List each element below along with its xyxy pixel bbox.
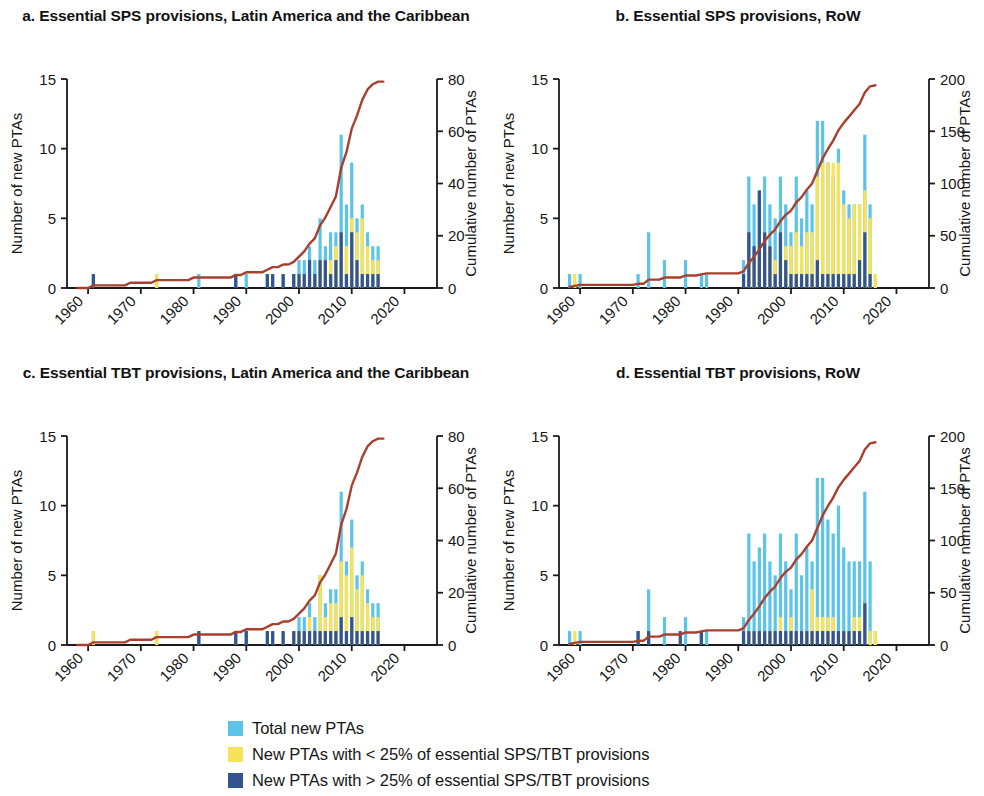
bar — [340, 232, 343, 288]
bar — [774, 274, 777, 288]
bar — [313, 631, 316, 645]
bar — [779, 232, 782, 288]
bar — [308, 631, 311, 645]
x-tick-label: 1970 — [103, 649, 139, 685]
y2-axis-title: Cumulative number of PTAs — [462, 447, 479, 633]
bar — [763, 534, 766, 645]
y-tick-label: 10 — [39, 497, 56, 514]
panel-a-plot: 0510150204060801960197019801990200020102… — [0, 0, 492, 357]
bar — [636, 274, 639, 288]
y2-tick-label: 0 — [940, 280, 948, 297]
y2-tick-label: 50 — [940, 584, 957, 601]
bar — [318, 260, 321, 288]
bar — [768, 631, 771, 645]
x-tick-label: 2000 — [262, 292, 298, 328]
legend-label-less25: New PTAs with < 25% of essential SPS/TBT… — [252, 745, 649, 764]
bar — [700, 631, 703, 645]
bar — [816, 631, 819, 645]
bar — [340, 617, 343, 645]
bar — [784, 260, 787, 288]
bar — [345, 631, 348, 645]
y-tick-label: 0 — [540, 280, 548, 297]
bar — [705, 631, 708, 645]
legend-swatch-total-icon — [228, 721, 243, 736]
bar — [705, 274, 708, 288]
bar — [774, 631, 777, 645]
bar — [345, 274, 348, 288]
x-tick-label: 2000 — [262, 649, 298, 685]
bar — [355, 631, 358, 645]
panel-b: b. Essential SPS provisions, RoW 0510150… — [492, 0, 984, 357]
bar — [318, 631, 321, 645]
bar — [684, 617, 687, 645]
x-tick-label: 1980 — [156, 292, 192, 328]
x-tick-label: 1960 — [543, 292, 579, 328]
bar — [752, 246, 755, 288]
bar — [805, 274, 808, 288]
bar — [842, 547, 845, 645]
bar — [663, 260, 666, 288]
bar — [821, 274, 824, 288]
figure-root: a. Essential SPS provisions, Latin Ameri… — [0, 0, 984, 796]
bar — [805, 547, 808, 645]
y-tick-label: 15 — [531, 71, 548, 88]
legend: Total new PTAs New PTAs with < 25% of es… — [0, 715, 984, 796]
y-tick-label: 5 — [48, 210, 56, 227]
x-tick-label: 2010 — [806, 292, 842, 328]
bar — [313, 274, 316, 288]
bar-series-less25 — [573, 589, 877, 645]
bar — [858, 631, 861, 645]
bar — [371, 631, 374, 645]
bar — [245, 631, 248, 645]
panel-d: d. Essential TBT provisions, RoW 0510150… — [492, 357, 984, 714]
bar — [324, 260, 327, 288]
y-tick-label: 10 — [531, 140, 548, 157]
y2-tick-label: 0 — [448, 280, 456, 297]
x-tick-label: 1980 — [648, 292, 684, 328]
bar — [826, 274, 829, 288]
x-tick-label: 2000 — [754, 649, 790, 685]
bar — [361, 631, 364, 645]
panel-d-svg: 0510150501001502001960197019801990200020… — [492, 357, 984, 714]
x-tick-label: 1960 — [51, 649, 87, 685]
panel-c-plot: 0510150204060801960197019801990200020102… — [0, 357, 492, 714]
bar — [303, 631, 306, 645]
y-tick-label: 15 — [39, 71, 56, 88]
bar — [245, 274, 248, 288]
bar — [837, 274, 840, 288]
x-tick-label: 1990 — [701, 292, 737, 328]
bar — [800, 631, 803, 645]
x-tick-label: 1990 — [209, 649, 245, 685]
y-tick-label: 0 — [48, 280, 56, 297]
legend-label-more25: New PTAs with > 25% of essential SPS/TBT… — [252, 771, 649, 790]
bar — [758, 631, 761, 645]
legend-item-less25: New PTAs with < 25% of essential SPS/TBT… — [228, 743, 649, 765]
bar — [868, 631, 871, 645]
x-tick-label: 2010 — [314, 649, 350, 685]
y-axis-title: Number of new PTAs — [8, 113, 25, 254]
bar — [742, 631, 745, 645]
panel-c-svg: 0510150204060801960197019801990200020102… — [0, 357, 492, 714]
bar — [329, 274, 332, 288]
bar — [308, 260, 311, 288]
bar — [271, 631, 274, 645]
bar — [810, 631, 813, 645]
bar — [874, 274, 877, 288]
bar — [329, 631, 332, 645]
bar — [821, 631, 824, 645]
bar — [842, 274, 845, 288]
panel-a: a. Essential SPS provisions, Latin Ameri… — [0, 0, 492, 357]
bar — [350, 232, 353, 288]
legend-label-total: Total new PTAs — [252, 719, 364, 738]
bar — [297, 631, 300, 645]
bar — [784, 631, 787, 645]
bar — [292, 274, 295, 288]
x-tick-label: 1960 — [543, 649, 579, 685]
x-tick-label: 2010 — [806, 649, 842, 685]
bar — [805, 631, 808, 645]
x-tick-label: 2000 — [754, 292, 790, 328]
y-tick-label: 15 — [39, 428, 56, 445]
bar — [361, 274, 364, 288]
bars — [92, 492, 380, 645]
x-tick-label: 1970 — [103, 292, 139, 328]
